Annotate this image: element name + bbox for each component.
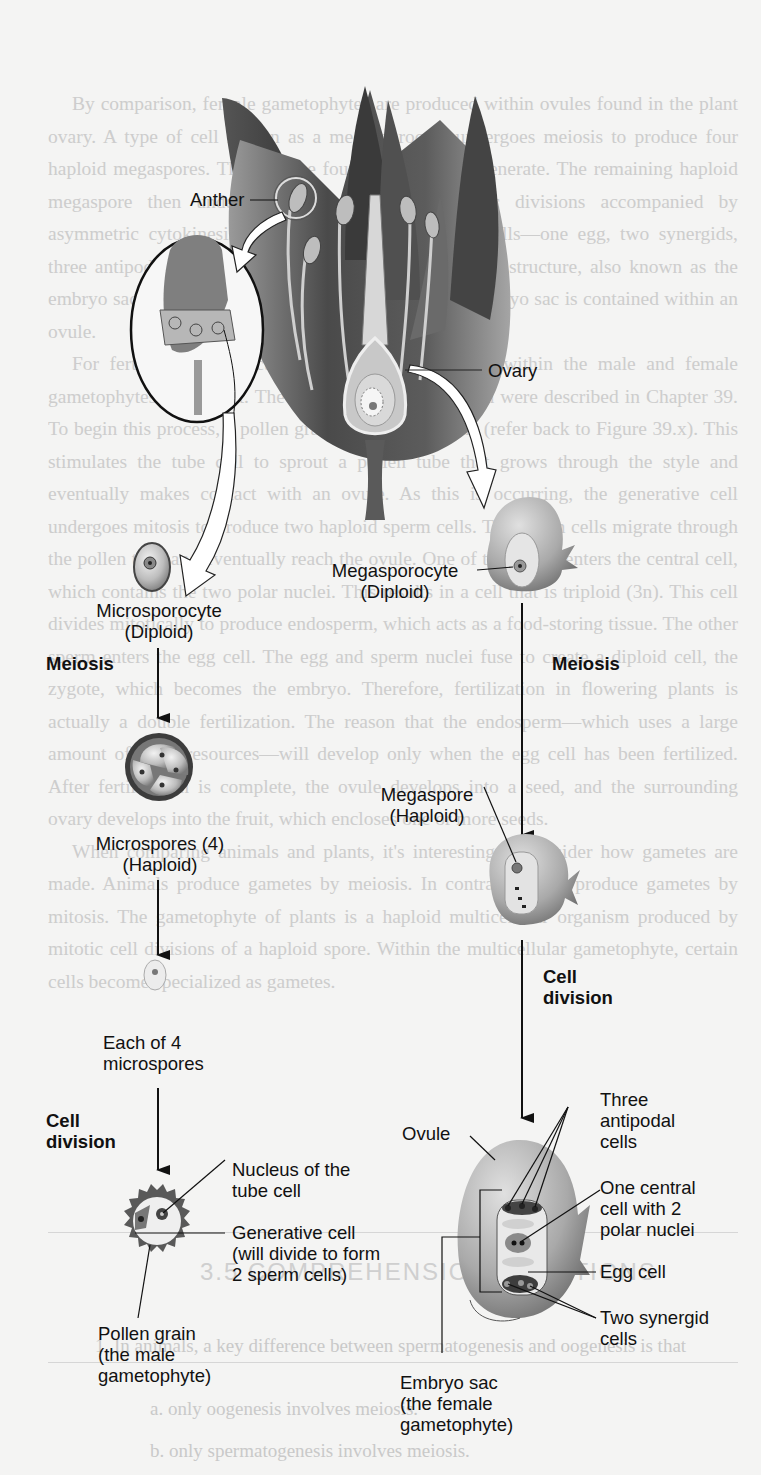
embryo-sac-icon bbox=[442, 1140, 590, 1353]
label-ovary: Ovary bbox=[488, 360, 537, 381]
label-each-microspore: Each of 4 microspores bbox=[103, 1032, 204, 1074]
microspore-tetrad-icon bbox=[125, 733, 193, 801]
megasporocyte-icon bbox=[487, 497, 578, 591]
label-nucleus-tube-cell: Nucleus of the tube cell bbox=[232, 1159, 350, 1201]
label-megasporocyte: Megasporocyte (Diploid) bbox=[320, 560, 470, 602]
label-three-antipodal-cells: Three antipodal cells bbox=[600, 1089, 675, 1152]
figure-artwork bbox=[0, 0, 761, 1475]
megaspore-icon bbox=[489, 834, 580, 925]
microspore-icon bbox=[144, 960, 166, 990]
label-cell-division-male: Cell division bbox=[46, 1110, 116, 1152]
label-pollen-grain: Pollen grain (the male gametophyte) bbox=[98, 1323, 211, 1386]
pollen-grain-icon bbox=[124, 1184, 190, 1252]
label-meiosis-female: Meiosis bbox=[552, 653, 620, 674]
label-microspores: Microspores (4) (Haploid) bbox=[80, 833, 240, 875]
label-anther: Anther bbox=[190, 189, 245, 210]
flower-icon bbox=[222, 86, 510, 520]
label-microsporocyte: Microsporocyte (Diploid) bbox=[84, 600, 234, 642]
label-egg-cell: Egg cell bbox=[600, 1261, 666, 1282]
label-central-cell: One central cell with 2 polar nuclei bbox=[600, 1177, 696, 1240]
label-meiosis-male: Meiosis bbox=[46, 653, 114, 674]
label-cell-division-female: Cell division bbox=[543, 966, 613, 1008]
label-ovule: Ovule bbox=[402, 1123, 450, 1144]
microsporocyte-icon bbox=[134, 543, 170, 591]
label-megaspore: Megaspore (Haploid) bbox=[372, 784, 482, 826]
label-two-synergid-cells: Two synergid cells bbox=[600, 1307, 709, 1349]
label-embryo-sac: Embryo sac (the female gametophyte) bbox=[400, 1372, 513, 1435]
label-generative-cell: Generative cell (will divide to form 2 s… bbox=[232, 1222, 380, 1285]
